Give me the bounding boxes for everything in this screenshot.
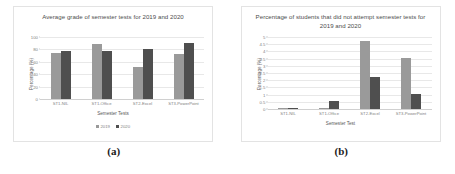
chart-x-tick-label: ST3-PowerPoint	[391, 111, 432, 116]
chart-bar	[370, 77, 380, 109]
chart-bar	[411, 94, 421, 109]
chart-bar	[184, 43, 194, 99]
chart-bar-group	[268, 37, 309, 109]
legend-swatch-icon	[96, 125, 99, 128]
chart-bar	[360, 41, 370, 109]
chart-bar	[278, 108, 288, 109]
chart-y-tick-label: 0	[36, 97, 38, 102]
chart-y-tick-label: 20	[33, 84, 38, 89]
chart-b-container: Percentage of students that did not atte…	[241, 6, 441, 142]
chart-a-plot-area: 020406080100	[40, 37, 204, 99]
chart-bar-groups	[40, 37, 204, 99]
chart-y-tick-label: 0.5	[260, 99, 266, 104]
chart-a-x-axis-title: Semester Tests	[14, 111, 212, 116]
figure-panel-a: Average grade of semester tests for 2019…	[0, 0, 228, 174]
chart-bar-group	[40, 37, 81, 99]
chart-b-plot-area: 00.511.522.533.544.55	[268, 37, 432, 109]
chart-legend-item: 2020	[116, 124, 130, 129]
chart-bar	[133, 67, 143, 99]
chart-bar-group	[122, 37, 163, 99]
chart-y-tick-label: 4.5	[260, 42, 266, 47]
chart-a-legend: 20192020	[14, 124, 212, 129]
figure-panel-row: Average grade of semester tests for 2019…	[0, 0, 455, 174]
chart-y-tick-label: 2.5	[260, 71, 266, 76]
chart-bar	[61, 51, 71, 99]
chart-y-tick-label: 3	[263, 63, 265, 68]
chart-y-tick-label: 1	[263, 92, 265, 97]
chart-b-caption: (b)	[228, 145, 455, 157]
chart-bar-group	[309, 37, 350, 109]
chart-bar-group	[81, 37, 122, 99]
chart-b-x-tick-labels: ST1-NILST1-OfficeST2-ExcelST3-PowerPoint	[268, 111, 432, 116]
chart-y-tick-label: 1.5	[260, 85, 266, 90]
chart-b-x-axis-title: Semester Test	[242, 121, 440, 126]
chart-bar-group	[391, 37, 432, 109]
chart-bar-group	[350, 37, 391, 109]
chart-y-tick-label: 100	[31, 35, 38, 40]
chart-a-caption: (a)	[0, 145, 228, 157]
chart-bar	[288, 108, 298, 109]
chart-x-tick-label: ST2-Excel	[350, 111, 391, 116]
chart-legend-item: 2019	[96, 124, 110, 129]
chart-b-plot-wrap: Percentage (%) 00.511.522.533.544.55 ST1…	[242, 7, 440, 141]
chart-bar	[51, 53, 61, 99]
chart-bar	[92, 44, 102, 99]
chart-y-tick-label: 3.5	[260, 56, 266, 61]
chart-x-tick-label: ST2-Excel	[122, 101, 163, 106]
chart-x-tick-label: ST1-NIL	[268, 111, 309, 116]
chart-y-tick-label: 60	[33, 59, 38, 64]
chart-x-tick-label: ST1-NIL	[40, 101, 81, 106]
chart-bar	[102, 51, 112, 99]
chart-a-x-tick-labels: ST1-NILST1-OfficeST2-ExcelST3-PowerPoint	[40, 101, 204, 106]
chart-y-tick-label: 0	[263, 107, 265, 112]
chart-x-tick-label: ST3-PowerPoint	[163, 101, 204, 106]
chart-bar	[319, 108, 329, 109]
chart-bar-groups	[268, 37, 432, 109]
chart-bar	[143, 49, 153, 99]
chart-bar-group	[163, 37, 204, 99]
chart-a-plot-wrap: Percentage (%) 020406080100 ST1-NILST1-O…	[14, 7, 212, 141]
legend-swatch-icon	[116, 125, 119, 128]
chart-axis-line	[268, 109, 432, 110]
chart-y-tick-label: 40	[33, 72, 38, 77]
chart-y-tick-label: 5	[263, 35, 265, 40]
chart-y-tick-label: 2	[263, 78, 265, 83]
chart-x-tick-label: ST1-Office	[81, 101, 122, 106]
chart-y-tick-label: 4	[263, 49, 265, 54]
chart-bar	[401, 58, 411, 109]
chart-bar	[329, 101, 339, 109]
chart-legend-label: 2019	[100, 124, 110, 129]
chart-y-tick-label: 80	[33, 47, 38, 52]
chart-legend-label: 2020	[121, 124, 131, 129]
chart-axis-line	[40, 99, 204, 100]
chart-x-tick-label: ST1-Office	[309, 111, 350, 116]
chart-bar	[174, 54, 184, 99]
chart-a-container: Average grade of semester tests for 2019…	[13, 6, 213, 142]
figure-panel-b: Percentage of students that did not atte…	[228, 0, 455, 174]
